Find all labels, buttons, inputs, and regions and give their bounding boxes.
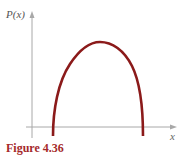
- y-axis-label: P(x): [6, 8, 25, 20]
- x-axis-label: x: [170, 130, 175, 142]
- x-axis-arrow-icon: [170, 125, 177, 130]
- chart-canvas: [0, 0, 181, 161]
- figure: P(x) x Figure 4.36: [0, 0, 181, 161]
- function-curve: [53, 42, 143, 136]
- figure-caption: Figure 4.36: [6, 141, 64, 156]
- y-axis-arrow-icon: [30, 11, 35, 18]
